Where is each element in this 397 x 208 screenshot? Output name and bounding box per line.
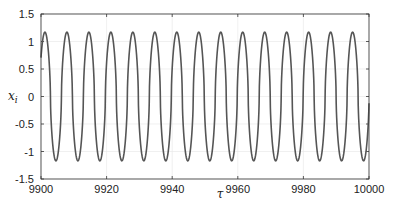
y-tick-label: 0	[28, 91, 34, 103]
y-tick-label: 1	[28, 36, 34, 48]
y-tick-label: -0.5	[15, 118, 34, 130]
y-tick-label: 0.5	[19, 63, 34, 75]
y-axis-label: xi	[8, 89, 18, 105]
y-tick-label: -1	[24, 146, 34, 158]
y-tick-label: -1.5	[15, 173, 34, 185]
x-tick-label: 9920	[94, 183, 118, 195]
x-tick-label: 9940	[160, 183, 184, 195]
x-tick-label: 10000	[354, 183, 385, 195]
y-tick-label: 1.5	[19, 8, 34, 20]
x-axis-label: τ	[217, 187, 224, 201]
x-tick-label: 9980	[291, 183, 315, 195]
x-tick-label: 9960	[226, 183, 250, 195]
line-chart: 99009920994099609980100001.510.50-0.5-1-…	[0, 0, 397, 208]
